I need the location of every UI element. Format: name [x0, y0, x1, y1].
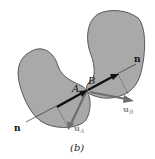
velocity-arrowhead-b	[123, 95, 134, 103]
body-a	[18, 49, 90, 128]
figure-caption: (b)	[70, 142, 84, 153]
label-normal-bottom: n	[14, 123, 21, 133]
label-velocity-a-sub: A	[79, 127, 85, 134]
collision-diagram: A B n n u A u B (b)	[0, 0, 155, 159]
label-point-a: A	[71, 83, 79, 94]
label-velocity-b-sub: B	[128, 108, 134, 115]
label-point-b: B	[87, 75, 95, 86]
label-normal-top: n	[134, 54, 141, 64]
